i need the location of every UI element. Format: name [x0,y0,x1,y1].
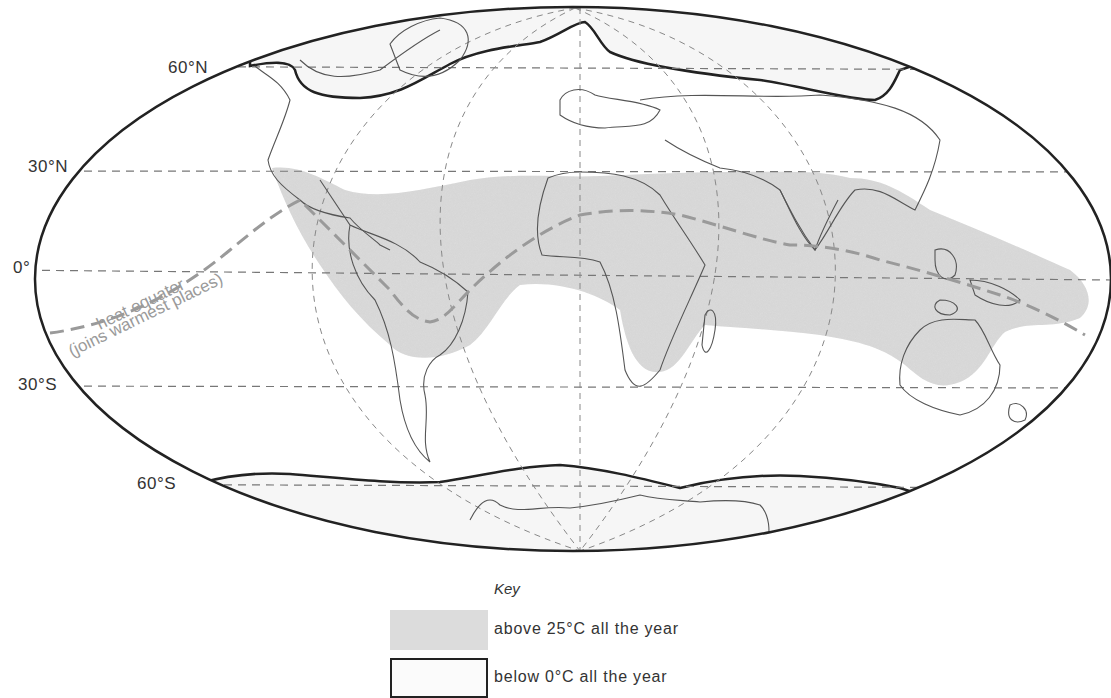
legend-label-hot: above 25°C all the year [494,620,679,638]
hot-zone-region [272,168,1089,386]
legend-label-cold: below 0°C all the year [494,668,667,686]
latitude-label-30n: 30°N [28,157,68,177]
cold-zone-south [180,465,935,694]
hot-zone-swatch [390,610,488,650]
svg-text:(joins warmest places): (joins warmest places) [65,269,225,360]
legend-title: Key [494,580,520,597]
latitude-label-0: 0° [13,258,30,278]
latitude-label-60n: 60°N [168,58,208,78]
latitude-label-60s: 60°S [137,474,176,494]
cold-zone-swatch [390,658,488,698]
heat-equator-label: heat equator (joins warmest places) [65,269,225,360]
latitude-label-30s: 30°S [18,375,57,395]
